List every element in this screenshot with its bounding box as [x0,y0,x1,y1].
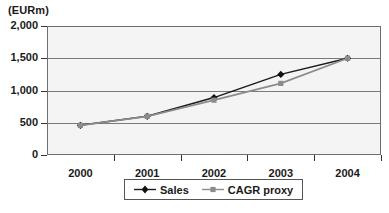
x-axis-tick [181,155,182,161]
legend-label-sales: Sales [160,184,189,196]
x-axis-tick [114,155,115,161]
x-axis-tick-label-wrap: 2002 [184,163,244,177]
x-axis-tick-label: 2002 [202,167,226,179]
y-axis-tick-label: 2,000 [0,19,38,31]
square-marker-icon [202,184,224,195]
y-axis-tick [41,155,47,156]
x-axis-tick-label: 2001 [135,167,159,179]
x-axis-tick [314,155,315,161]
y-axis-tick-label-wrap: 1,500 [0,51,38,64]
y-axis-tick-label-wrap: 2,000 [0,19,38,32]
y-axis-tick-label-wrap: 1,000 [0,84,38,97]
y-axis-tick-label: 1,000 [0,84,38,96]
y-axis-tick [41,91,47,92]
gridline [48,123,380,124]
y-axis-tick [41,123,47,124]
y-axis-tick [41,58,47,59]
x-axis-tick-label-wrap: 2000 [50,163,110,177]
gridline [48,58,380,59]
x-axis-tick-label-wrap: 2004 [318,163,378,177]
y-axis-tick [41,26,47,27]
y-axis-tick-label: 1,500 [0,51,38,63]
y-axis-unit-label: (EURm) [8,4,49,16]
y-axis-tick-label-wrap: 0 [0,148,38,161]
line-chart: (EURm) 05001,0001,5002,00020002001200220… [0,0,389,213]
legend-item-cagr-proxy[interactable]: CAGR proxy [202,184,293,196]
x-axis-tick-label: 2004 [335,167,359,179]
legend-item-sales[interactable]: Sales [134,184,189,196]
chart-legend: Sales CAGR proxy [124,179,303,200]
diamond-marker-icon [134,184,156,195]
legend-label-cagr-proxy: CAGR proxy [228,184,293,196]
gridline [48,91,380,92]
x-axis-tick [247,155,248,161]
y-axis-tick-label-wrap: 500 [0,116,38,129]
plot-area [47,26,381,155]
x-axis-tick-label: 2003 [269,167,293,179]
y-axis-tick-label: 500 [0,116,38,128]
x-axis-tick-label: 2000 [68,167,92,179]
x-axis-tick-label-wrap: 2003 [251,163,311,177]
x-axis-tick-label-wrap: 2001 [117,163,177,177]
x-axis-tick [381,155,382,161]
y-axis-tick-label: 0 [0,148,38,160]
